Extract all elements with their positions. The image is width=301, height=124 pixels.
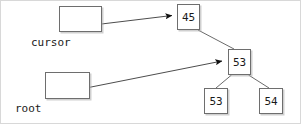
tree-node-54-right-child[interactable]: 54: [259, 88, 283, 114]
cursor-pointer-box[interactable]: [59, 6, 102, 32]
tree-node-53-left-child[interactable]: 53: [204, 88, 228, 114]
arrow-root-to-node53root: [71, 61, 222, 91]
edge-node45-to-node53root: [198, 30, 234, 49]
tree-node-53-subtree-root[interactable]: 53: [228, 49, 251, 75]
edge-node53root-to-node53left: [216, 75, 232, 88]
tree-node-45[interactable]: 45: [177, 4, 200, 30]
root-pointer-box[interactable]: [45, 72, 90, 99]
diagram-lines-layer: [1, 1, 301, 124]
edge-node53root-to-node54right: [249, 75, 270, 88]
root-variable-label: root: [15, 103, 42, 115]
cursor-variable-label: cursor: [31, 37, 71, 49]
tree-diagram-canvas: cursor root 45 53 53 54: [0, 0, 301, 124]
